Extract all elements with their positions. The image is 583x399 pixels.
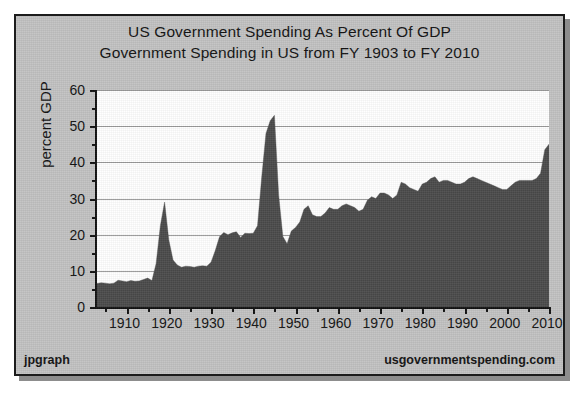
- x-tick-minor-2005: [528, 307, 530, 312]
- x-tick-minor-1915: [148, 307, 150, 312]
- x-tick-label-2010: 2010: [517, 315, 577, 331]
- y-tick-minor-35: [92, 180, 97, 182]
- y-tick-label-40: 40: [45, 154, 85, 170]
- x-tick-minor-1955: [317, 307, 319, 312]
- x-tick-major-1990: [465, 307, 467, 314]
- y-tick-major-50: [90, 126, 97, 128]
- chart-figure: US Government Spending As Percent Of GDP…: [14, 14, 565, 376]
- x-tick-minor-1925: [190, 307, 192, 312]
- y-tick-major-20: [90, 235, 97, 237]
- y-tick-label-60: 60: [45, 82, 85, 98]
- y-tick-label-20: 20: [45, 227, 85, 243]
- x-tick-minor-1975: [401, 307, 403, 312]
- area-series: [97, 90, 549, 307]
- y-tick-minor-15: [92, 253, 97, 255]
- y-tick-major-10: [90, 271, 97, 273]
- x-tick-minor-1995: [486, 307, 488, 312]
- plot-inner: [97, 90, 549, 307]
- series-path-total-spending: [97, 115, 549, 307]
- title-block: US Government Spending As Percent Of GDP…: [16, 21, 563, 63]
- y-tick-minor-5: [92, 289, 97, 291]
- x-tick-major-1920: [169, 307, 171, 314]
- x-tick-minor-1905: [105, 307, 107, 312]
- x-tick-major-1980: [422, 307, 424, 314]
- x-tick-minor-1935: [232, 307, 234, 312]
- x-tick-major-1960: [338, 307, 340, 314]
- y-tick-label-30: 30: [45, 191, 85, 207]
- x-tick-major-1950: [296, 307, 298, 314]
- x-tick-major-1930: [211, 307, 213, 314]
- plot-area: [95, 90, 549, 309]
- chart-subtitle: Government Spending in US from FY 1903 t…: [16, 42, 563, 63]
- y-tick-label-0: 0: [45, 299, 85, 315]
- x-tick-major-2000: [507, 307, 509, 314]
- credit-source: usgovernmentspending.com: [384, 353, 555, 367]
- y-tick-major-0: [90, 307, 97, 309]
- x-tick-major-1970: [380, 307, 382, 314]
- x-tick-major-1940: [253, 307, 255, 314]
- x-tick-minor-1945: [274, 307, 276, 312]
- credit-jpgraph: jpgraph: [24, 353, 70, 367]
- y-tick-label-10: 10: [45, 263, 85, 279]
- x-tick-minor-1985: [443, 307, 445, 312]
- x-tick-major-1910: [127, 307, 129, 314]
- x-tick-minor-1965: [359, 307, 361, 312]
- y-tick-minor-55: [92, 108, 97, 110]
- x-tick-major-2010: [549, 307, 551, 314]
- y-tick-major-40: [90, 162, 97, 164]
- y-tick-label-50: 50: [45, 118, 85, 134]
- y-tick-major-60: [90, 90, 97, 92]
- y-tick-minor-45: [92, 144, 97, 146]
- chart-title: US Government Spending As Percent Of GDP: [16, 21, 563, 42]
- y-tick-minor-25: [92, 217, 97, 219]
- y-tick-major-30: [90, 199, 97, 201]
